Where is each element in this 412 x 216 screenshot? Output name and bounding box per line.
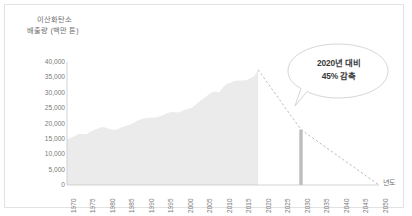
y-axis-title-line1: 이산화탄소 bbox=[27, 15, 137, 26]
callout-line2: 45% 감축 bbox=[288, 70, 390, 83]
y-axis-title-line2: 배출량 (백만 톤) bbox=[27, 26, 137, 37]
x-tick-label: 2040 bbox=[343, 198, 350, 213]
x-tick-label: 1990 bbox=[148, 198, 155, 213]
y-tick-label: 20,000 bbox=[23, 120, 65, 128]
y-axis-tick-labels: 40,00035,00030,00025,00020,00015,00010,0… bbox=[23, 56, 65, 191]
x-axis-title: 년도 bbox=[383, 177, 395, 187]
target-2030-bar bbox=[299, 130, 302, 185]
x-tick-label: 1980 bbox=[109, 198, 116, 213]
x-tick-label: 2025 bbox=[284, 198, 291, 213]
x-tick-label: 2000 bbox=[187, 198, 194, 213]
x-axis-tick-labels: 1970197519801985199019952000200520102015… bbox=[67, 187, 379, 216]
x-tick-label: 2005 bbox=[206, 198, 213, 213]
historical-emissions-area bbox=[67, 70, 258, 185]
y-tick-label: 0 bbox=[23, 181, 65, 189]
x-tick-label: 1985 bbox=[128, 198, 135, 213]
y-tick-label: 15,000 bbox=[23, 135, 65, 143]
x-tick-label: 1995 bbox=[167, 198, 174, 213]
x-tick-label: 2050 bbox=[382, 198, 389, 213]
y-axis-title: 이산화탄소 배출량 (백만 톤) bbox=[27, 15, 137, 36]
y-tick-label: 5,000 bbox=[23, 166, 65, 174]
chart-frame: 이산화탄소 배출량 (백만 톤) 40,00035,00030,00025,00… bbox=[4, 4, 404, 208]
y-tick-label: 40,000 bbox=[23, 58, 65, 66]
x-tick-label: 1970 bbox=[70, 198, 77, 213]
x-tick-label: 2030 bbox=[304, 198, 311, 213]
x-tick-label: 2015 bbox=[245, 198, 252, 213]
x-tick-label: 1975 bbox=[89, 198, 96, 213]
x-tick-label: 2020 bbox=[265, 198, 272, 213]
y-tick-label: 25,000 bbox=[23, 104, 65, 112]
y-tick-label: 10,000 bbox=[23, 150, 65, 158]
y-tick-label: 35,000 bbox=[23, 73, 65, 81]
reduction-callout: 2020년 대비 45% 감축 bbox=[288, 43, 390, 101]
x-tick-label: 2045 bbox=[362, 198, 369, 213]
callout-line1: 2020년 대비 bbox=[288, 57, 390, 70]
callout-text: 2020년 대비 45% 감축 bbox=[288, 57, 390, 82]
x-tick-label: 2035 bbox=[323, 198, 330, 213]
x-tick-label: 2010 bbox=[226, 198, 233, 213]
y-tick-label: 30,000 bbox=[23, 89, 65, 97]
